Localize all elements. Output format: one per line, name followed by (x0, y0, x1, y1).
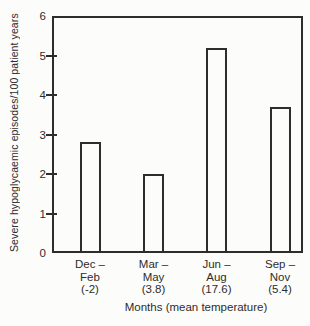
bar (206, 48, 227, 253)
bar-chart-figure: Severe hypoglycaemic episodes/100 patien… (0, 0, 310, 326)
x-category-label-line: Feb (58, 271, 122, 284)
x-category-label-line: (17.6) (185, 283, 249, 296)
x-category-label-line: Sep – (248, 258, 310, 271)
x-category-label-line: Jun – (185, 258, 249, 271)
x-category-label-line: Dec – (58, 258, 122, 271)
y-tick-label: 5 (24, 49, 46, 63)
y-axis-tick (46, 94, 57, 96)
bar (270, 107, 291, 253)
y-tick-label: 0 (24, 246, 46, 260)
y-axis-tick (46, 134, 57, 136)
x-category-label-line: (5.4) (248, 283, 310, 296)
x-category-label-line: May (122, 271, 186, 284)
y-tick-label: 2 (24, 167, 46, 181)
x-category-label: Sep –Nov(5.4) (248, 258, 310, 296)
y-axis-tick (46, 173, 57, 175)
bar (143, 174, 164, 253)
x-category-label: Mar –May(3.8) (122, 258, 186, 296)
x-category-label-line: Aug (185, 271, 249, 284)
bar (80, 142, 101, 253)
x-category-label-line: Mar – (122, 258, 186, 271)
y-axis-title: Severe hypoglycaemic episodes/100 patien… (8, 8, 20, 258)
y-tick-label: 4 (24, 88, 46, 102)
y-axis-tick (46, 213, 57, 215)
y-tick-label: 1 (24, 207, 46, 221)
x-category-label-line: (3.8) (122, 283, 186, 296)
y-tick-label: 6 (24, 9, 46, 23)
x-category-label-line: (-2) (58, 283, 122, 296)
y-axis-tick (46, 55, 57, 57)
x-axis-title: Months (mean temperature) (106, 301, 286, 313)
x-category-label-line: Nov (248, 271, 310, 284)
x-category-label: Jun –Aug(17.6) (185, 258, 249, 296)
x-category-label: Dec –Feb(-2) (58, 258, 122, 296)
y-tick-label: 3 (24, 128, 46, 142)
